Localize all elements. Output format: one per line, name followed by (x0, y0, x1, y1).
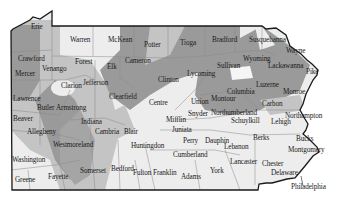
county-label-cameron: Cameron (125, 58, 151, 65)
county-label-fayette: Fayette (48, 174, 68, 181)
county-label-perry: Perry (183, 138, 198, 145)
county-label-elk: Elk (107, 64, 117, 71)
county-label-indiana: Indiana (81, 119, 102, 126)
county-label-adams: Adams (181, 174, 201, 181)
county-label-armstrong: Armstrong (56, 105, 86, 112)
county-label-lackawanna: Lackawanna (268, 63, 303, 70)
county-label-washington: Washington (12, 157, 45, 164)
county-label-union: Union (191, 99, 208, 106)
county-label-huntingdon: Huntingdon (131, 143, 164, 150)
county-label-bucks: Bucks (296, 136, 313, 143)
county-label-sullivan: Sullivan (217, 63, 240, 70)
county-label-luzerne: Luzerne (256, 82, 279, 89)
county-label-york: York (210, 168, 224, 175)
county-label-mercer: Mercer (15, 71, 35, 78)
county-label-blair: Blair (124, 129, 138, 136)
county-label-lycoming: Lycoming (187, 71, 215, 78)
county-label-greene: Greene (15, 177, 35, 184)
county-label-philadelphia: Philadelphia (291, 184, 326, 191)
county-label-beaver: Beaver (13, 116, 33, 123)
county-label-clarion: Clarion (61, 83, 82, 90)
county-label-mifflin: Mifflin (166, 117, 186, 124)
county-label-snyder: Snyder (188, 111, 208, 118)
county-label-crawford: Crawford (18, 56, 45, 63)
county-label-wayne: Wayne (286, 48, 305, 55)
county-label-schuylkill: Schuylkill (231, 118, 260, 125)
county-label-franklin: Franklin (153, 170, 177, 177)
county-label-delaware: Delaware (271, 170, 298, 177)
county-label-cumberland: Cumberland (173, 152, 208, 159)
county-label-cambria: Cambria (95, 129, 119, 136)
county-label-somerset: Somerset (80, 168, 106, 175)
county-label-pike: Pike (306, 69, 318, 76)
county-label-mckean: McKean (108, 37, 132, 44)
county-label-monroe: Monroe (283, 89, 305, 96)
county-label-susquehanna: Susquehanna (249, 37, 286, 44)
county-label-warren: Warren (70, 37, 90, 44)
county-label-carbon: Carbon (262, 101, 283, 108)
county-label-lebanon: Lebanon (224, 144, 248, 151)
county-label-venango: Venango (42, 66, 66, 73)
county-label-bradford: Bradford (212, 37, 237, 44)
county-label-jefferson: Jefferson (83, 80, 108, 87)
county-label-montgomery: Montgomery (288, 147, 325, 154)
county-label-chester: Chester (262, 161, 283, 168)
county-label-wyoming: Wyoming (243, 56, 271, 63)
county-label-berks: Berks (253, 135, 269, 142)
county-label-erie: Erie (31, 24, 43, 31)
county-label-clinton: Clinton (158, 77, 179, 84)
county-label-lancaster: Lancaster (230, 159, 257, 166)
county-label-westmoreland: Westmoreland (53, 142, 93, 149)
county-label-lehigh: Lehigh (271, 119, 291, 126)
county-label-potter: Potter (144, 42, 161, 49)
county-label-juniata: Juniata (172, 127, 192, 134)
county-label-bedford: Bedford (111, 166, 134, 173)
county-label-centre: Centre (149, 100, 168, 107)
county-label-montour: Montour (211, 96, 235, 103)
county-label-forest: Forest (75, 59, 92, 66)
county-label-clearfield: Clearfield (109, 94, 137, 101)
county-label-tioga: Tioga (180, 40, 196, 47)
county-label-allegheny: Allegheny (27, 129, 56, 136)
county-label-lawrence: Lawrence (13, 96, 41, 103)
county-label-fulton: Fulton (133, 170, 151, 177)
county-label-butler: Butler (37, 105, 54, 112)
